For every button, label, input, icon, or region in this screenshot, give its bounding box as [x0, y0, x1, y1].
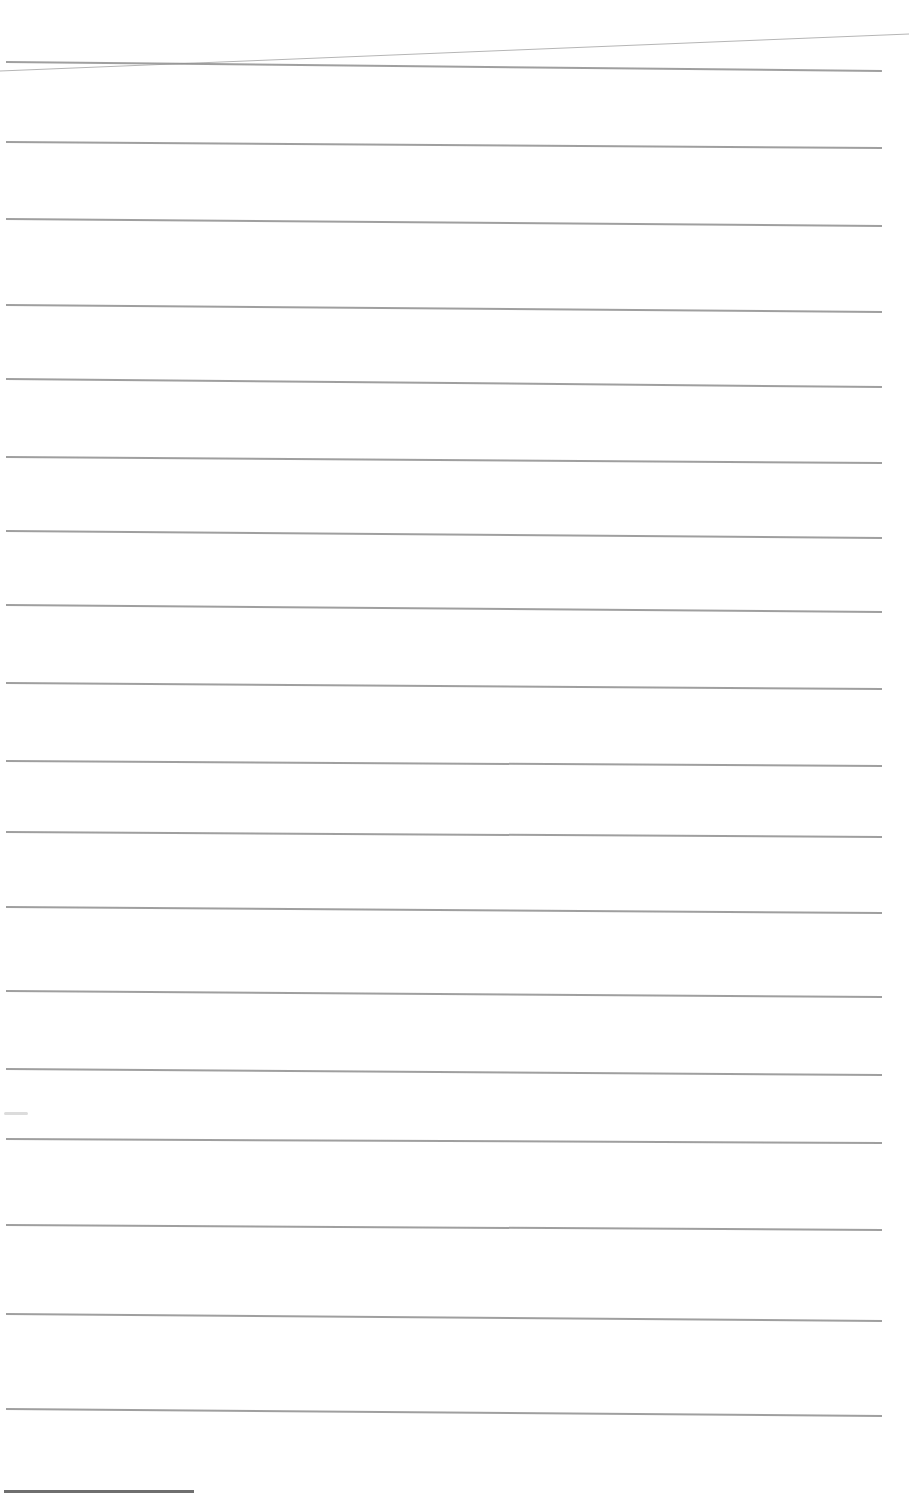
ruled-line: [6, 831, 882, 838]
ruled-line: [6, 760, 882, 767]
scan-smudge: [4, 1112, 28, 1115]
lined-paper-page: [0, 0, 909, 1493]
ruled-line: [6, 990, 882, 998]
ruled-line: [6, 1224, 882, 1231]
ruled-line: [6, 530, 882, 539]
ruled-line: [6, 906, 882, 914]
ruled-line: [6, 682, 882, 690]
ruled-line: [6, 378, 882, 388]
ruled-line: [6, 141, 882, 149]
ruled-line: [6, 304, 882, 313]
ruled-line: [6, 1068, 882, 1076]
ruled-line: [6, 1138, 882, 1144]
ruled-line: [6, 1408, 882, 1417]
ruled-line: [6, 604, 882, 613]
ruled-line: [6, 1313, 882, 1322]
ruled-line: [6, 218, 882, 227]
ruled-line: [6, 456, 882, 464]
